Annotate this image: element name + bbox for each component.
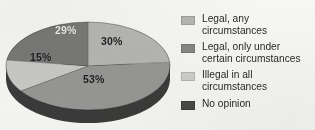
legend-item-label-1: Legal, only under certain circumstances — [202, 41, 312, 64]
pie-chart-figure: 30%53%15%29% Legal, any circumstancesLeg… — [0, 0, 315, 130]
slice-no-opinion-value-label: 29% — [55, 24, 76, 36]
slice-legal-certain-value-label: 53% — [83, 73, 104, 85]
chart-legend: Legal, any circumstancesLegal, only unde… — [181, 13, 315, 115]
pie-chart-graphic: 30%53%15%29% — [0, 0, 180, 130]
legend-item-label-3: No opinion — [202, 98, 251, 110]
legend-swatch-icon-2 — [181, 72, 195, 81]
slice-illegal-all-value-label: 15% — [30, 51, 51, 63]
legend-swatch-icon-1 — [181, 44, 195, 53]
legend-item-1[interactable]: Legal, only under certain circumstances — [181, 41, 315, 64]
legend-item-2[interactable]: Illegal in all circumstances — [181, 69, 315, 92]
legend-item-0[interactable]: Legal, any circumstances — [181, 13, 315, 36]
legend-swatch-icon-0 — [181, 16, 195, 25]
slice-legal-any-value-label: 30% — [101, 35, 122, 47]
legend-item-3[interactable]: No opinion — [181, 98, 315, 110]
legend-item-label-2: Illegal in all circumstances — [202, 69, 312, 92]
legend-item-label-0: Legal, any circumstances — [202, 13, 312, 36]
legend-swatch-icon-3 — [181, 101, 195, 110]
pie-svg — [0, 0, 180, 130]
pie-wedges — [6, 22, 170, 110]
